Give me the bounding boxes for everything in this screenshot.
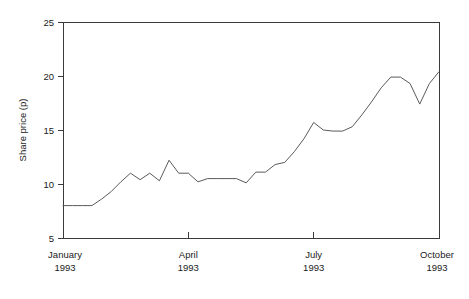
y-tick-label: 15 — [43, 125, 54, 136]
share-price-chart: 510152025 January1993April1993July1993Oc… — [0, 0, 469, 299]
y-tick-label: 20 — [43, 71, 54, 82]
x-tick-label-month: July — [305, 249, 322, 260]
x-tick-label-year: 1993 — [303, 262, 324, 273]
y-tick-label: 5 — [49, 233, 54, 244]
y-tick-label: 25 — [43, 17, 54, 28]
y-tick-label: 10 — [43, 179, 54, 190]
x-tick-label-year: 1993 — [178, 262, 199, 273]
y-axis-title: Share price (p) — [17, 99, 28, 162]
x-tick-label-year: 1993 — [426, 262, 447, 273]
x-tick-label-month: April — [179, 249, 198, 260]
x-tick-label-year: 1993 — [54, 262, 75, 273]
x-tick-label-month: January — [48, 249, 82, 260]
chart-canvas: 510152025 January1993April1993July1993Oc… — [0, 0, 469, 299]
x-tick-label-month: October — [420, 249, 454, 260]
